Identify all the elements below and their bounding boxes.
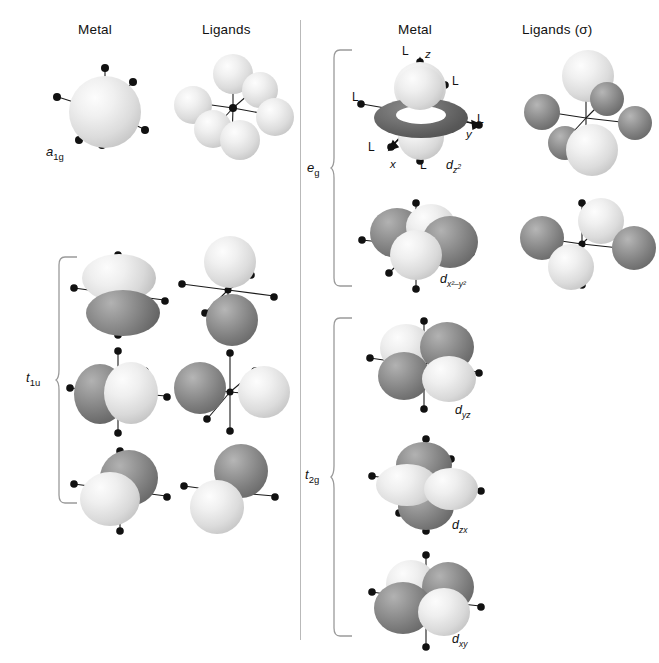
ligand-label-L: L <box>477 112 484 126</box>
ligand-sphere-light <box>190 480 244 534</box>
dyz-metal-orbital <box>358 312 513 422</box>
ligand-sphere-dark <box>590 82 624 116</box>
dx2y2-orbital-label: dx²–y² <box>440 272 466 289</box>
dz2-orbital-label: dz2 <box>446 158 461 175</box>
dxy-lobe-light <box>418 588 470 636</box>
left-ligands-header: Ligands <box>202 22 251 37</box>
t1u-ligand-salc-z <box>176 236 296 346</box>
ligand-label-L: L <box>452 74 459 88</box>
t1u-metal-pz <box>72 240 192 350</box>
dzx-orbital-label: dzx <box>452 518 467 535</box>
right-metal-header: Metal <box>398 22 432 37</box>
dx2y2-metal-orbital <box>348 196 503 306</box>
orbital-diagram-figure: Metal Ligands Metal Ligands (σ) <box>0 0 659 663</box>
t1u-symmetry-label: t1u <box>26 370 40 388</box>
x-axis-label: x <box>390 158 396 170</box>
right-ligands-header: Ligands (σ) <box>522 22 593 37</box>
t1u-ligand-salc-x <box>180 438 300 543</box>
ligand-sphere <box>256 98 294 136</box>
eg-ligand-salc-1 <box>520 48 655 178</box>
eg-symmetry-label: eg <box>307 160 320 178</box>
ligand-label-L: L <box>420 158 427 172</box>
ligand-sphere-dark <box>618 106 652 140</box>
left-metal-header: Metal <box>78 22 112 37</box>
ligand-sphere-light <box>204 236 256 288</box>
dx2y2-lobe-light <box>390 230 442 280</box>
ligand-sphere-dark <box>524 94 560 130</box>
z-axis-label: z <box>425 48 431 60</box>
ligand-label-L: L <box>368 140 375 154</box>
a1g-symmetry-label: a1g <box>46 144 64 162</box>
p-orbital-lobe-light <box>104 362 158 424</box>
dyz-lobe-light <box>422 356 476 402</box>
dxy-orbital-label: dxy <box>452 632 467 649</box>
dyz-orbital-label: dyz <box>455 403 470 420</box>
dzx-lobe-light <box>424 468 478 510</box>
t2g-symmetry-label: t2g <box>305 467 319 485</box>
metal-s-orbital-sphere <box>69 76 141 148</box>
y-axis-label: y <box>466 128 472 140</box>
ligand-sphere-light <box>238 366 290 418</box>
p-orbital-lobe-dark <box>86 290 160 336</box>
ligand-sphere <box>220 120 260 160</box>
ligand-sphere-light <box>548 244 594 290</box>
dxy-metal-orbital <box>360 542 515 657</box>
ligand-label-L: L <box>352 90 359 104</box>
dz2-upper-lobe-front <box>396 66 444 110</box>
panel-divider <box>300 20 301 640</box>
dz2-metal-orbital <box>358 42 518 182</box>
ligand-label-L: L <box>402 44 409 58</box>
ligand-sphere-light <box>566 124 618 176</box>
eg-ligand-salc-2 <box>516 192 656 302</box>
t1u-metal-px <box>72 438 197 543</box>
ligand-sphere-dark <box>612 226 656 270</box>
ligand-sphere-dark <box>206 294 258 346</box>
t1u-ligand-salc-y <box>172 340 302 445</box>
a1g-ligand-salc <box>168 48 298 168</box>
t2g-brace <box>330 316 356 638</box>
p-orbital-lobe-light <box>80 472 140 526</box>
dzx-metal-orbital <box>362 428 517 543</box>
ligand-sphere-dark <box>174 362 226 414</box>
